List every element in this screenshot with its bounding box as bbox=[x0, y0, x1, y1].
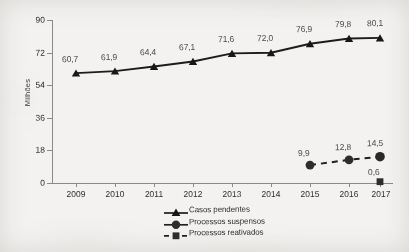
marker-processos-suspensos-2017 bbox=[375, 152, 385, 162]
circle-marker-icon bbox=[163, 216, 189, 227]
data-label-pendentes-2011: 64,4 bbox=[140, 47, 156, 57]
data-label-suspensos-2016: 12,8 bbox=[335, 142, 351, 152]
data-label-pendentes-2017: 80,1 bbox=[367, 18, 383, 28]
data-label-pendentes-2016: 79,8 bbox=[335, 19, 351, 29]
data-label-suspensos-2017: 14,5 bbox=[367, 138, 383, 148]
legend-item-processos-reativados[interactable]: Processos reativados bbox=[163, 227, 363, 239]
legend-item-casos-pendentes[interactable]: Casos pendentes bbox=[163, 204, 363, 216]
square-marker-icon bbox=[163, 227, 189, 238]
data-label-pendentes-2014: 72,0 bbox=[257, 33, 273, 43]
data-label-suspensos-2015: 9,9 bbox=[298, 148, 310, 158]
data-label-pendentes-2015: 76,9 bbox=[296, 24, 312, 34]
legend-label-processos-suspensos: Processos suspensos bbox=[189, 216, 265, 226]
data-label-pendentes-2010: 61,9 bbox=[101, 52, 117, 62]
data-label-pendentes-2012: 67,1 bbox=[179, 42, 195, 52]
triangle-marker-icon bbox=[163, 204, 189, 215]
data-label-pendentes-2013: 71,6 bbox=[218, 34, 234, 44]
chart-legend: Casos pendentes Processos suspensos Proc… bbox=[163, 204, 363, 239]
legend-label-processos-reativados: Processos reativados bbox=[189, 228, 264, 238]
legend-item-processos-suspensos[interactable]: Processos suspensos bbox=[163, 216, 363, 228]
legend-label-casos-pendentes: Casos pendentes bbox=[189, 205, 250, 215]
marker-processos-suspensos-2015 bbox=[306, 161, 315, 170]
marker-processos-suspensos-2016 bbox=[345, 155, 354, 164]
data-label-pendentes-2009: 60,7 bbox=[62, 54, 78, 64]
chart-scan-canvas: Milhões 90 72 54 36 18 0 2009 2010 2011 … bbox=[0, 0, 409, 252]
marker-processos-reativados-2017 bbox=[377, 178, 384, 185]
data-label-reativados-2017: 0,6 bbox=[368, 167, 380, 177]
